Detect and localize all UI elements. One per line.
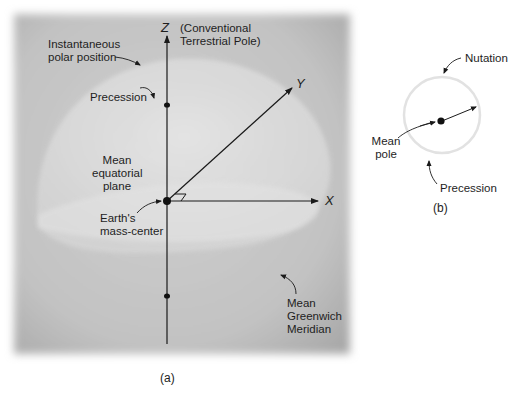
z-axis-label: Z bbox=[161, 21, 169, 34]
greenwich-label-line1: Mean bbox=[287, 297, 316, 310]
equatorial-label-line3: plane bbox=[92, 180, 142, 193]
equatorial-label-line1: Mean bbox=[92, 154, 142, 167]
mean-pole-label-line2: pole bbox=[368, 148, 404, 161]
x-axis-label: X bbox=[325, 194, 334, 207]
ctp-label-line2: Terrestrial Pole) bbox=[180, 35, 261, 48]
greenwich-label-line3: Meridian bbox=[287, 323, 331, 336]
mean-pole-label: Mean pole bbox=[368, 135, 404, 161]
precession-path-arrow bbox=[442, 107, 476, 121]
precession-label-b: Precession bbox=[440, 182, 497, 195]
equatorial-label-line2: equatorial bbox=[92, 167, 142, 180]
mass-center-label-line1: Earth's bbox=[100, 212, 135, 225]
precession-b-leader-arrow bbox=[429, 161, 437, 184]
mean-pole-dot bbox=[437, 117, 444, 124]
mass-center-dot bbox=[163, 197, 171, 205]
pole-dot-lower bbox=[164, 293, 170, 298]
y-axis-label: Y bbox=[296, 77, 305, 90]
pole-dot-upper bbox=[164, 102, 170, 107]
precession-label-a: Precession bbox=[90, 91, 147, 104]
caption-a: (a) bbox=[160, 372, 175, 385]
ctp-label-line1: (Conventional bbox=[180, 22, 251, 35]
nutation-label: Nutation bbox=[465, 52, 508, 65]
instantaneous-label-line1: Instantaneous bbox=[48, 38, 120, 51]
greenwich-label-line2: Greenwich bbox=[287, 310, 342, 323]
caption-b: (b) bbox=[433, 202, 448, 215]
mean-pole-label-line1: Mean bbox=[368, 135, 404, 148]
nutation-leader-arrow bbox=[444, 58, 461, 73]
equatorial-label: Mean equatorial plane bbox=[92, 154, 142, 193]
instantaneous-label-line2: polar position bbox=[48, 51, 116, 64]
mass-center-label-line2: mass-center bbox=[100, 225, 163, 238]
nutation-circle bbox=[404, 77, 480, 153]
